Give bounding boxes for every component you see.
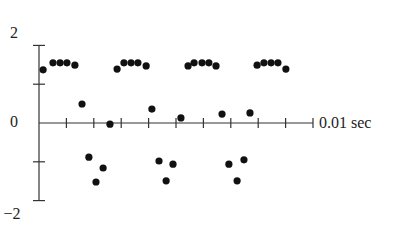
data-point [100,164,107,171]
data-point [155,157,162,164]
data-point [190,59,197,66]
data-point [254,62,261,69]
data-point [212,62,219,69]
data-point [205,59,212,66]
data-point [120,59,127,66]
data-point [40,66,47,73]
data-point [177,114,184,121]
x-axis-label: 0.01 sec [319,114,371,131]
y-tick-label-0: 0 [10,113,18,130]
data-point [127,59,134,66]
data-point [267,59,274,66]
data-point [134,59,141,66]
data-point [92,178,99,185]
data-point [148,105,155,112]
data-point [106,121,113,128]
data-point [56,59,63,66]
data-point [240,156,247,163]
data-point [85,154,92,161]
scatter-chart: 2 0 −2 0.01 sec [0,0,406,236]
data-point [234,177,241,184]
y-tick-label-neg2: −2 [3,205,20,222]
data-point [163,177,170,184]
data-point [63,59,70,66]
data-point [169,161,176,168]
data-point [78,100,85,107]
data-point [225,161,232,168]
data-point [71,62,78,69]
data-point [246,109,253,116]
data-point [143,62,150,69]
data-point [198,59,205,66]
data-point [49,59,56,66]
data-point [218,110,225,117]
data-point [282,65,289,72]
y-axis: 2 0 −2 [3,24,45,222]
data-point [260,59,267,66]
x-axis: 0.01 sec [39,114,371,131]
y-tick-label-2: 2 [10,24,18,41]
data-point [113,65,120,72]
data-point [274,59,281,66]
